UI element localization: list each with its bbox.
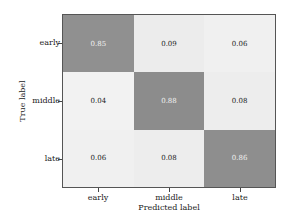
matrix-cell: 0.06 — [204, 15, 275, 72]
x-tick-early: early — [88, 193, 108, 202]
cell-value: 0.85 — [91, 40, 107, 48]
matrix-cell: 0.86 — [204, 130, 275, 187]
y-tick-mark — [58, 159, 62, 160]
y-tick-early: early — [40, 38, 60, 47]
cell-value: 0.04 — [91, 97, 107, 105]
cell-value: 0.86 — [232, 154, 248, 162]
y-axis-label: True label — [18, 80, 27, 121]
matrix-cell: 0.08 — [134, 130, 205, 187]
y-tick-mark — [58, 43, 62, 44]
confusion-matrix-plot: 0.850.090.060.040.880.080.060.080.86 — [62, 14, 276, 188]
x-tick-mark — [98, 188, 99, 192]
cell-value: 0.88 — [161, 97, 177, 105]
x-tick-late: late — [232, 193, 247, 202]
x-tick-middle: middle — [155, 193, 183, 202]
x-tick-mark — [240, 188, 241, 192]
y-tick-middle: middle — [32, 96, 60, 105]
cell-value: 0.08 — [232, 97, 248, 105]
x-tick-mark — [169, 188, 170, 192]
matrix-cell: 0.04 — [63, 72, 134, 129]
cell-value: 0.09 — [161, 40, 177, 48]
cell-value: 0.08 — [161, 154, 177, 162]
matrix-cell: 0.08 — [204, 72, 275, 129]
cell-value: 0.06 — [91, 154, 107, 162]
y-tick-mark — [58, 101, 62, 102]
matrix-cell: 0.06 — [63, 130, 134, 187]
cell-value: 0.06 — [232, 40, 248, 48]
matrix-cell: 0.85 — [63, 15, 134, 72]
x-axis-label: Predicted label — [138, 203, 199, 212]
matrix-cell: 0.09 — [134, 15, 205, 72]
matrix-cell: 0.88 — [134, 72, 205, 129]
